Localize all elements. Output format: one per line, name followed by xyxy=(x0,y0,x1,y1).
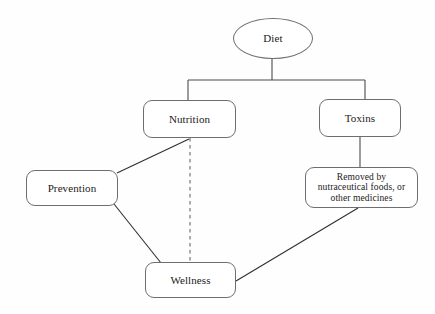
node-removed-by-nutraceutical[interactable]: Removed by nutraceutical foods, or other… xyxy=(305,167,418,208)
edge-removed-to-wellness xyxy=(236,208,358,281)
node-toxins-label: Toxins xyxy=(345,112,375,124)
node-toxins[interactable]: Toxins xyxy=(319,99,401,137)
node-wellness[interactable]: Wellness xyxy=(145,262,236,298)
edge-prevention-to-wellness xyxy=(114,204,161,263)
node-removed-line-1: Removed by xyxy=(337,172,386,182)
node-diet-label: Diet xyxy=(263,32,282,44)
node-removed-line-3: other medicines xyxy=(331,193,393,203)
node-removed-by-label: Removed by nutraceutical foods, or other… xyxy=(318,172,406,204)
node-removed-line-2: nutraceutical foods, or xyxy=(318,182,406,192)
node-nutrition[interactable]: Nutrition xyxy=(143,100,236,138)
node-prevention-label: Prevention xyxy=(48,182,97,194)
node-nutrition-label: Nutrition xyxy=(169,113,210,125)
diagram-canvas: Diet Nutrition Toxins Removed by nutrace… xyxy=(0,0,435,314)
node-diet[interactable]: Diet xyxy=(233,18,313,59)
edge-prevention-to-nutrition xyxy=(117,139,189,173)
node-prevention[interactable]: Prevention xyxy=(26,170,118,206)
node-wellness-label: Wellness xyxy=(170,274,210,286)
